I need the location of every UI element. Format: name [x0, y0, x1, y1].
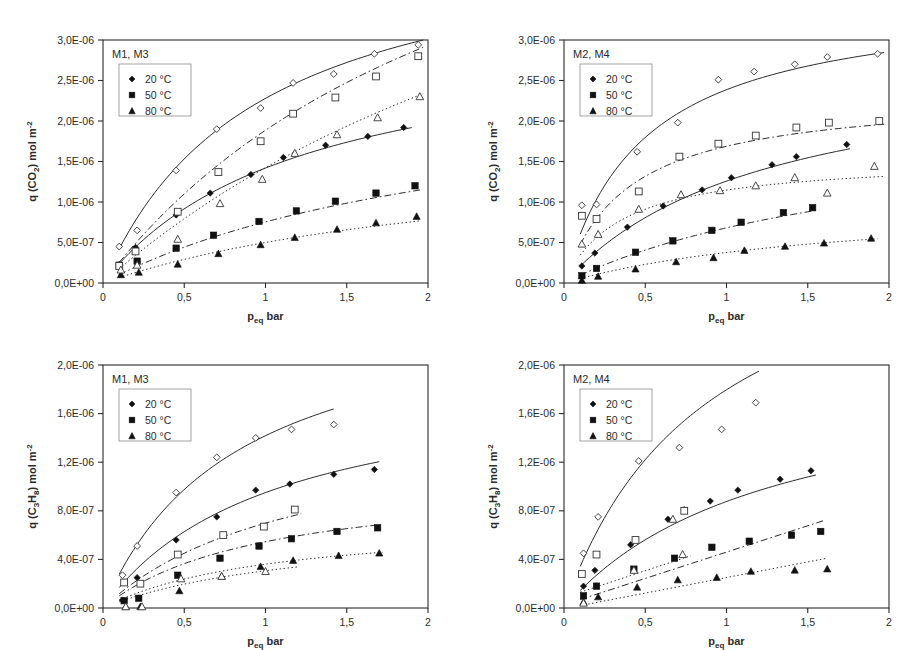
- data-point: [134, 227, 141, 234]
- data-point: [217, 555, 223, 561]
- data-point: [777, 476, 783, 482]
- data-point: [257, 138, 264, 145]
- y-tick-label: 1,5E-06: [518, 155, 555, 167]
- data-point: [332, 198, 338, 204]
- data-point: [333, 226, 340, 233]
- data-point: [595, 513, 602, 520]
- data-point: [287, 481, 293, 487]
- data-point: [121, 579, 128, 586]
- series-M3-80--C: [122, 568, 269, 610]
- fit-line: [580, 239, 877, 279]
- x-tick-label: 1,5: [800, 291, 815, 303]
- y-tick-label: 2,5E-06: [518, 74, 555, 86]
- x-tick-label: 1,5: [800, 616, 815, 628]
- fit-line: [119, 525, 379, 596]
- x-tick-label: 1: [724, 616, 730, 628]
- data-point: [213, 454, 220, 461]
- data-point: [416, 93, 424, 100]
- fit-line: [580, 558, 827, 605]
- data-point: [738, 219, 744, 225]
- data-point: [373, 73, 380, 80]
- data-point: [136, 595, 142, 601]
- data-point: [218, 572, 226, 579]
- legend-label: 20 °C: [606, 73, 633, 85]
- data-point: [593, 583, 599, 589]
- series-M1-80--C: [122, 550, 383, 610]
- data-point: [415, 41, 422, 48]
- fit-line: [119, 221, 420, 278]
- fit-line: [119, 552, 382, 600]
- fit-line: [580, 475, 816, 590]
- x-axis-title: peq bar: [708, 635, 745, 650]
- data-point: [373, 190, 379, 196]
- data-point: [374, 114, 382, 121]
- data-point: [173, 537, 179, 543]
- fit-line: [119, 128, 412, 264]
- data-point: [788, 532, 794, 538]
- data-point: [291, 234, 298, 241]
- fit-line: [580, 176, 884, 255]
- data-point: [578, 202, 585, 209]
- data-point: [413, 213, 420, 220]
- data-point: [257, 105, 264, 112]
- x-tick-label: 0: [561, 616, 567, 628]
- legend-label: 50 °C: [145, 89, 172, 101]
- data-point: [709, 544, 715, 550]
- data-point: [707, 498, 713, 504]
- data-point: [676, 444, 683, 451]
- data-point: [635, 188, 642, 195]
- data-point: [580, 550, 587, 557]
- legend-label: 20 °C: [145, 398, 172, 410]
- y-axis-title: q (C3H8) mol m-2: [486, 444, 502, 529]
- data-point: [677, 191, 685, 198]
- fit-line: [580, 521, 824, 600]
- data-point: [670, 238, 676, 244]
- legend-title: M2, M4: [573, 373, 610, 385]
- data-point: [735, 487, 741, 493]
- data-point: [635, 458, 642, 465]
- data-point: [579, 263, 585, 269]
- data-point: [780, 209, 786, 215]
- legend-label: 50 °C: [145, 414, 172, 426]
- y-tick-label: 8,0E-07: [518, 504, 555, 516]
- data-point: [578, 240, 586, 247]
- x-axis: 00,511,52: [561, 283, 892, 303]
- series-M3-50--C: [121, 506, 298, 587]
- data-point: [335, 552, 342, 559]
- data-point: [412, 183, 418, 189]
- data-point: [791, 174, 799, 181]
- y-tick-label: 1,5E-06: [57, 155, 94, 167]
- legend-label: 20 °C: [145, 73, 172, 85]
- data-point: [874, 50, 881, 57]
- x-axis: 00,511,52: [561, 608, 892, 628]
- y-tick-label: 1,6E-06: [57, 407, 94, 419]
- x-tick-label: 0,5: [177, 616, 192, 628]
- data-point: [718, 426, 725, 433]
- data-point: [791, 567, 798, 574]
- y-tick-label: 3,0E-06: [518, 34, 555, 46]
- data-point: [809, 204, 815, 210]
- data-point: [256, 218, 262, 224]
- data-point: [376, 550, 383, 557]
- data-point: [624, 224, 630, 230]
- series-M2-80--C: [580, 565, 831, 604]
- data-point: [634, 584, 641, 591]
- y-tick-label: 3,0E-06: [57, 34, 94, 46]
- data-point: [808, 468, 814, 474]
- data-point: [288, 426, 295, 433]
- data-point: [580, 583, 586, 589]
- data-point: [174, 208, 181, 215]
- data-point: [174, 235, 182, 242]
- legend-label: 80 °C: [606, 430, 633, 442]
- data-point: [415, 53, 422, 60]
- data-point: [752, 182, 760, 189]
- y-tick-label: 0,0E+00: [516, 277, 556, 289]
- y-tick-label: 2,0E-06: [57, 115, 94, 127]
- series-M4-50--C: [578, 118, 882, 223]
- data-point: [593, 216, 600, 223]
- data-point: [709, 227, 715, 233]
- data-point: [371, 466, 377, 472]
- data-point: [253, 487, 259, 493]
- data-point: [248, 171, 254, 177]
- legend-title: M1, M3: [112, 373, 149, 385]
